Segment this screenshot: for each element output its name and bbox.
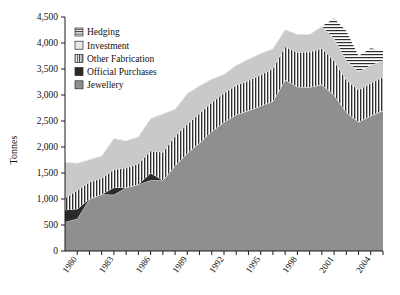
x-tick-label: 1980 [60, 254, 79, 275]
y-axis-title: Tonnes [8, 136, 19, 165]
y-tick-label: 4,500 [37, 12, 59, 22]
y-axis-tick-labels: 05001,0001,5002,0002,5003,0003,5004,0004… [37, 12, 65, 256]
x-tick-label: 1989 [170, 254, 189, 275]
x-tick-label: 1986 [134, 254, 153, 275]
chart-legend: HedgingInvestmentOther FabricationOffici… [75, 27, 157, 90]
legend-swatch-official-purchases [75, 68, 83, 76]
legend-swatch-hedging [75, 28, 83, 36]
legend-label-jewellery: Jewellery [87, 80, 124, 90]
y-tick-label: 500 [44, 220, 59, 230]
legend-label-hedging: Hedging [87, 27, 120, 37]
y-tick-label: 2,000 [37, 142, 59, 152]
y-tick-label: 1,000 [37, 194, 59, 204]
x-tick-label: 1995 [244, 254, 263, 275]
chart-canvas: 05001,0001,5002,0002,5003,0003,5004,0004… [0, 0, 400, 295]
x-axis-tick-labels: 198019831986198919921995199820012004 [60, 251, 383, 275]
y-tick-label: 2,500 [37, 116, 59, 126]
y-tick-label: 1,500 [37, 168, 59, 178]
x-tick-label: 1992 [207, 254, 226, 274]
x-tick-label: 1998 [281, 254, 300, 275]
x-tick-label: 2004 [354, 254, 373, 275]
y-tick-label: 4,000 [37, 38, 59, 48]
y-tick-label: 3,000 [37, 90, 59, 100]
gold-supply-demand-stacked-area-chart: 05001,0001,5002,0002,5003,0003,5004,0004… [0, 0, 400, 295]
legend-label-investment: Investment [87, 41, 130, 51]
x-tick-label: 2001 [317, 254, 336, 274]
legend-swatch-jewellery [75, 81, 83, 89]
legend-swatch-investment [75, 41, 83, 49]
y-tick-label: 3,500 [37, 64, 59, 74]
legend-label-official-purchases: Official Purchases [87, 67, 157, 77]
legend-label-other-fabrication: Other Fabrication [87, 54, 155, 64]
legend-swatch-other-fabrication [75, 54, 83, 62]
x-tick-label: 1983 [97, 254, 116, 275]
y-tick-label: 0 [53, 246, 58, 256]
